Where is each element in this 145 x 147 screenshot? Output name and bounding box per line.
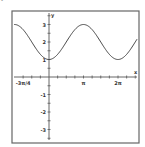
x-tick-label: π: [82, 80, 86, 86]
y-tick-label: -1: [40, 92, 46, 98]
x-tick-label: -3π/4: [16, 80, 31, 86]
y-tick-label: -2: [40, 109, 46, 115]
chart: -3π/4π2π321-1-2-3 x y: [0, 0, 145, 147]
function-curve: [14, 25, 137, 60]
x-tick-label: 2π: [114, 80, 121, 86]
y-tick-label: 3: [43, 22, 47, 28]
y-tick-label: -3: [40, 127, 46, 133]
axes: [14, 13, 137, 140]
x-axis-label: x: [134, 69, 138, 75]
y-tick-label: 2: [43, 39, 47, 45]
y-axis-label: y: [51, 12, 55, 19]
